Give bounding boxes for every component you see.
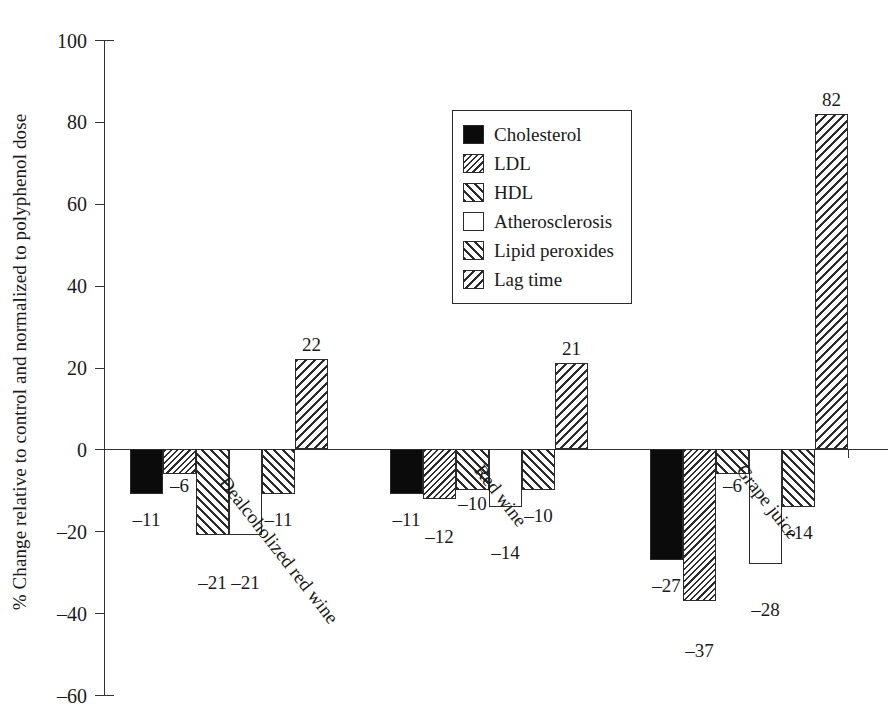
- bar: [390, 449, 423, 494]
- legend-label: Atherosclerosis: [494, 212, 612, 231]
- y-tick-label: –40: [57, 604, 87, 624]
- y-tick: 60: [95, 204, 104, 205]
- bar: [650, 449, 683, 560]
- legend-swatch-icon: [463, 270, 484, 289]
- y-tick-label: 40: [67, 276, 87, 296]
- bar: [262, 449, 295, 494]
- bar: [295, 359, 328, 449]
- legend-item[interactable]: Atherosclerosis: [463, 207, 621, 236]
- bar: [130, 449, 163, 494]
- bar-value-label: 82: [815, 90, 848, 109]
- legend-swatch-icon: [463, 183, 484, 202]
- y-tick-label: 60: [67, 194, 87, 214]
- y-axis-spine: [104, 40, 105, 695]
- bar-value-label: –12: [423, 527, 456, 546]
- legend-label: Cholesterol: [494, 125, 582, 144]
- bar-value-label: –27: [650, 576, 683, 595]
- legend-swatch-icon: [463, 212, 484, 231]
- bar-value-label: –21: [229, 573, 262, 592]
- legend-swatch-icon: [463, 154, 484, 173]
- bar-value-label: –14: [489, 543, 522, 562]
- legend-item[interactable]: Cholesterol: [463, 120, 621, 149]
- y-tick-label: 80: [67, 112, 87, 132]
- bar-chart: % Change relative to control and normali…: [0, 0, 893, 724]
- legend-item[interactable]: HDL: [463, 178, 621, 207]
- bar-value-label: –11: [130, 510, 163, 529]
- bar: [423, 449, 456, 498]
- y-tick: 40: [95, 286, 104, 287]
- legend-label: Lipid peroxides: [494, 241, 614, 260]
- bar: [163, 449, 196, 474]
- y-tick: 20: [95, 368, 104, 369]
- bar-value-label: –6: [163, 476, 196, 495]
- y-tick-label: –60: [57, 686, 87, 706]
- y-axis-bottom-cap: [104, 695, 114, 696]
- bar-value-label: –28: [749, 600, 782, 619]
- bar-value-label: –21: [196, 573, 229, 592]
- group-label: Dealcoholized red wine: [216, 473, 342, 627]
- y-tick: 100: [95, 40, 104, 41]
- y-tick: –60: [95, 695, 104, 696]
- y-axis-top-cap: [104, 40, 114, 41]
- y-axis-title: % Change relative to control and normali…: [0, 0, 40, 724]
- y-tick: 0: [95, 449, 104, 450]
- legend-swatch-icon: [463, 241, 484, 260]
- x-axis-right-tick: [848, 449, 849, 458]
- y-tick-label: 0: [77, 440, 87, 460]
- bar: [782, 449, 815, 506]
- y-tick-label: 20: [67, 358, 87, 378]
- legend-item[interactable]: Lag time: [463, 265, 621, 294]
- bar-value-label: –10: [456, 494, 489, 513]
- legend-item[interactable]: LDL: [463, 149, 621, 178]
- y-tick-label: –20: [57, 522, 87, 542]
- bar-value-label: 21: [555, 339, 588, 358]
- bar-value-label: –11: [390, 510, 423, 529]
- legend: CholesterolLDLHDLAtherosclerosisLipid pe…: [452, 110, 632, 304]
- bar: [555, 363, 588, 449]
- legend-swatch-icon: [463, 125, 484, 144]
- legend-label: HDL: [494, 183, 533, 202]
- y-tick: 80: [95, 122, 104, 123]
- legend-label: Lag time: [494, 270, 562, 289]
- bar-value-label: –37: [683, 641, 716, 660]
- y-tick: –40: [95, 613, 104, 614]
- legend-item[interactable]: Lipid peroxides: [463, 236, 621, 265]
- bar-value-label: 22: [295, 335, 328, 354]
- bar: [522, 449, 555, 490]
- legend-label: LDL: [494, 154, 531, 173]
- bar: [683, 449, 716, 600]
- bar: [815, 114, 848, 450]
- y-tick: –20: [95, 531, 104, 532]
- y-tick-label: 100: [57, 31, 87, 51]
